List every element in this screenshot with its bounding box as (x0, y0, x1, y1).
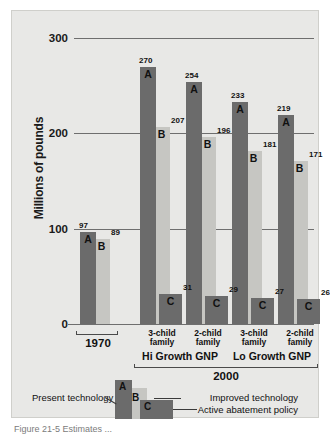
bar-value-label: 26 (321, 289, 330, 297)
legend-label-improved-technology: Improved technology (210, 393, 298, 403)
chart-legend: ABCPresent technologyImproved technology… (12, 375, 320, 419)
bar-c-2: C (205, 296, 228, 324)
bar-series-letter: C (159, 296, 182, 307)
bar-group-2: BAC25419629 (186, 19, 232, 324)
y-tick-label-300: 300 (30, 33, 68, 43)
x-category-label-4: 2-childfamily (270, 329, 330, 347)
bar-group-4: BAC21917126 (278, 19, 324, 324)
bar-value-label: 196 (217, 127, 230, 135)
bar-value-label: 219 (277, 105, 290, 113)
legend-leader-c (173, 409, 197, 410)
era-label-1970: 1970 (68, 337, 128, 349)
bar-value-label: 270 (139, 57, 152, 65)
y-tick-label-100: 100 (30, 224, 68, 234)
bar-series-letter: A (186, 84, 202, 95)
legend-label-active-abatement-policy: Active abatement policy (198, 405, 298, 415)
legend-leader-b (154, 398, 181, 399)
super-group-label-1: Lo Growth GNP (226, 351, 318, 362)
legend-label-present-technology: Present technology (32, 393, 113, 403)
bar-series-letter: A (232, 104, 248, 115)
bracket-1970 (76, 331, 118, 335)
y-tick-label-200: 200 (30, 128, 68, 138)
bar-group-1: BAC27020731 (140, 19, 186, 324)
bar-a-1: A (140, 67, 156, 324)
bar-value-label: 97 (79, 222, 88, 230)
bar-group-3: BAC23318127 (232, 19, 278, 324)
chart-plate: Millions of pounds 0100200300BA9789BAC27… (11, 10, 319, 418)
bar-series-letter: C (297, 301, 320, 312)
bar-value-label: 207 (171, 117, 184, 125)
bar-series-letter: C (251, 300, 274, 311)
bar-c-4: C (297, 299, 320, 324)
legend-key-b: B (132, 393, 139, 403)
bracket-2000 (134, 364, 318, 368)
bar-value-label: 27 (275, 288, 284, 296)
bar-a-0: A (80, 232, 96, 324)
bar-series-letter: A (278, 117, 294, 128)
bar-value-label: 233 (231, 92, 244, 100)
plot-area: 0100200300BA9789BAC270207313-childfamily… (74, 19, 314, 324)
legend-key-c: C (144, 402, 151, 412)
figure-caption: Figure 21-5 Estimates ... (14, 424, 314, 434)
y-tick-label-0: 0 (30, 319, 68, 329)
bar-value-label: 181 (263, 141, 276, 149)
bar-value-label: 29 (229, 286, 238, 294)
figure-bar-chart: Millions of pounds 0100200300BA9789BAC27… (0, 0, 330, 434)
y-axis-label: Millions of pounds (32, 93, 46, 243)
bar-value-label: 254 (185, 72, 198, 80)
bar-series-letter: A (140, 69, 156, 80)
super-group-label-0: Hi Growth GNP (134, 351, 226, 362)
bar-c-3: C (251, 298, 274, 324)
bar-series-letter: C (205, 298, 228, 309)
bar-value-label: 31 (183, 284, 192, 292)
bar-value-label: 171 (309, 151, 322, 159)
x-axis-baseline (68, 324, 314, 325)
bar-c-1: C (159, 294, 182, 324)
bar-series-letter: A (80, 234, 96, 245)
bar-value-label: 89 (111, 229, 120, 237)
bar-group-0: BA9789 (80, 19, 126, 324)
legend-key-a: A (119, 382, 126, 392)
